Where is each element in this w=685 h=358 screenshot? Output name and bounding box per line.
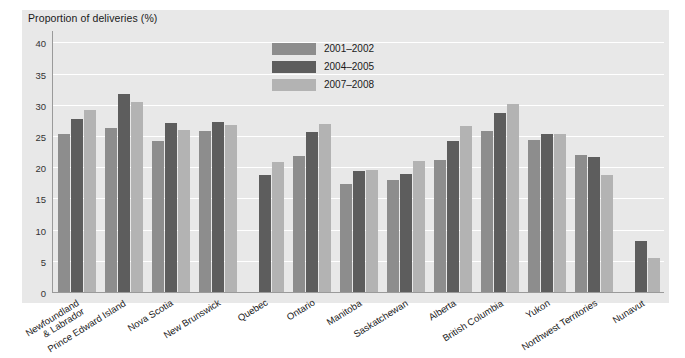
bar xyxy=(635,241,647,292)
chart-container: Proportion of deliveries (%) 05101520253… xyxy=(0,0,685,358)
bar xyxy=(447,141,459,292)
bar xyxy=(541,134,553,292)
bar-group xyxy=(53,31,100,292)
x-axis-label: Nunavut xyxy=(611,298,647,326)
bar xyxy=(460,126,472,292)
x-axis-labels: Newfoundland& LabradorPrince Edward Isla… xyxy=(52,294,664,358)
bar xyxy=(481,131,493,292)
bar-group xyxy=(617,31,664,292)
y-axis-tick-label: 25 xyxy=(35,132,46,143)
bar xyxy=(528,140,540,292)
y-axis-tick-label: 15 xyxy=(35,194,46,205)
bar xyxy=(306,132,318,292)
bar xyxy=(259,175,271,292)
y-axis-tick-label: 30 xyxy=(35,100,46,111)
legend-item: 2001–2002 xyxy=(272,42,374,55)
bar xyxy=(118,94,130,292)
legend-item: 2004–2005 xyxy=(272,60,374,73)
bar xyxy=(575,155,587,292)
bar xyxy=(58,134,70,292)
bar xyxy=(413,161,425,292)
y-axis-tick-label: 5 xyxy=(41,256,46,267)
bar xyxy=(494,113,506,292)
bar xyxy=(84,110,96,292)
legend-label: 2004–2005 xyxy=(324,61,374,72)
legend-item: 2007–2008 xyxy=(272,78,374,91)
bar xyxy=(293,156,305,292)
bar xyxy=(366,170,378,292)
bar xyxy=(554,134,566,292)
bar xyxy=(165,123,177,292)
x-axis-label: Ontario xyxy=(285,298,317,323)
bar xyxy=(387,180,399,292)
bar-group xyxy=(523,31,570,292)
y-axis-tick-label: 40 xyxy=(35,38,46,49)
bar-group xyxy=(100,31,147,292)
legend-swatch xyxy=(272,79,316,91)
bar-group xyxy=(570,31,617,292)
bar xyxy=(272,162,284,292)
bar-group xyxy=(476,31,523,292)
bar xyxy=(601,175,613,292)
legend-swatch xyxy=(272,61,316,73)
x-axis-label: Alberta xyxy=(427,298,458,323)
bar-group xyxy=(429,31,476,292)
bar xyxy=(225,125,237,292)
bar xyxy=(434,160,446,292)
x-axis-label: Yukon xyxy=(524,298,552,321)
legend-swatch xyxy=(272,43,316,55)
x-axis-line xyxy=(52,292,664,293)
y-axis-tick-label: 35 xyxy=(35,69,46,80)
bar xyxy=(648,258,660,292)
bar xyxy=(400,174,412,292)
chart-legend: 2001–20022004–20052007–2008 xyxy=(272,42,374,91)
bar xyxy=(178,130,190,292)
bar xyxy=(199,131,211,292)
legend-label: 2007–2008 xyxy=(324,79,374,90)
bar-group xyxy=(382,31,429,292)
bar-group xyxy=(147,31,194,292)
chart-title: Proportion of deliveries (%) xyxy=(28,12,157,24)
bar xyxy=(212,122,224,292)
y-axis-tick-label: 20 xyxy=(35,163,46,174)
bar xyxy=(507,104,519,292)
x-axis-label: Manitoba xyxy=(325,298,364,328)
bar xyxy=(152,141,164,292)
bar-group xyxy=(194,31,241,292)
y-axis-tick-label: 0 xyxy=(41,288,46,299)
x-axis-label: Quebec xyxy=(236,298,270,324)
bar xyxy=(71,119,83,292)
bar xyxy=(131,102,143,292)
bar xyxy=(319,124,331,292)
bar xyxy=(588,157,600,292)
bar xyxy=(353,171,365,292)
bar xyxy=(105,128,117,292)
y-axis-tick-label: 10 xyxy=(35,225,46,236)
legend-label: 2001–2002 xyxy=(324,43,374,54)
bar xyxy=(340,184,352,292)
